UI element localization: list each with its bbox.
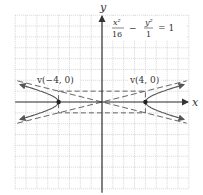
vertex-label-left: v(−4, 0) [36, 74, 80, 85]
vertex-left-label: v(−4, 0) [36, 75, 74, 85]
x-axis-label: x [192, 96, 199, 109]
equation-equals: = 1 [158, 23, 174, 33]
equation-den2: 1 [146, 30, 151, 39]
hyperbola-graph: y x x² 16 − y² 1 = 1 v(−4, 0) v(4, 0) [0, 0, 203, 195]
equation: x² 16 − y² 1 = 1 [110, 16, 186, 40]
equation-num2: y² [144, 18, 153, 27]
equation-num1: x² [113, 18, 121, 27]
y-axis-label: y [99, 1, 107, 14]
vertex-right-label: v(4, 0) [129, 75, 159, 85]
axes [15, 16, 188, 193]
equation-minus: − [129, 23, 137, 33]
equation-den1: 16 [112, 30, 122, 39]
vertex-label-right: v(4, 0) [129, 74, 161, 85]
